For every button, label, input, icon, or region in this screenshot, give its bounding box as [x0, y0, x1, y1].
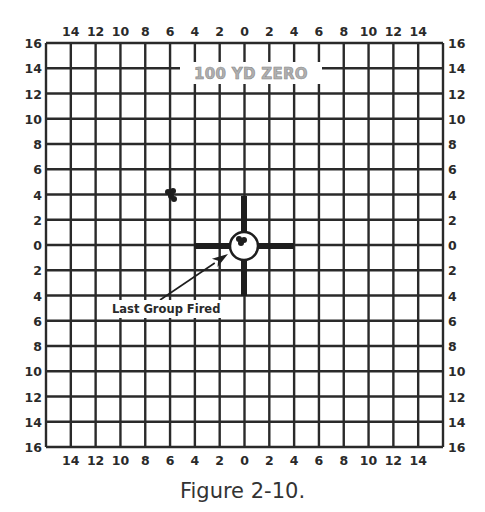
- axis-tick-label: 0: [33, 238, 42, 253]
- axis-tick-label: 2: [33, 213, 42, 228]
- axis-tick-label: 2: [265, 24, 274, 39]
- axis-tick-label: 8: [339, 453, 348, 468]
- axis-tick-label: 16: [448, 36, 466, 51]
- axis-tick-label: 10: [448, 112, 466, 127]
- axis-tick-label: 4: [290, 24, 299, 39]
- bullet-hole: [238, 240, 244, 246]
- axis-tick-label: 12: [448, 390, 465, 405]
- bullet-hole: [171, 196, 177, 202]
- axis-tick-label: 12: [385, 24, 402, 39]
- aiming-circle: [230, 232, 258, 260]
- axis-tick-label: 8: [448, 137, 457, 152]
- axis-tick-label: 0: [448, 238, 457, 253]
- axis-tick-label: 14: [25, 61, 43, 76]
- axis-tick-label: 4: [448, 289, 457, 304]
- axis-tick-label: 6: [448, 314, 457, 329]
- axis-tick-label: 2: [448, 263, 457, 278]
- axis-tick-label: 14: [409, 24, 427, 39]
- axis-tick-label: 6: [166, 453, 175, 468]
- axis-tick-label: 14: [409, 453, 427, 468]
- axis-tick-label: 10: [448, 364, 466, 379]
- figure-caption: Figure 2-10.: [0, 479, 485, 503]
- axis-tick-label: 12: [385, 453, 402, 468]
- axis-tick-label: 6: [166, 24, 175, 39]
- axis-tick-label: 16: [25, 440, 43, 455]
- axis-tick-label: 10: [360, 24, 378, 39]
- axis-tick-label: 0: [240, 24, 249, 39]
- axis-tick-label: 8: [141, 453, 150, 468]
- axis-tick-label: 14: [448, 415, 466, 430]
- axis-tick-label: 0: [240, 453, 249, 468]
- axis-tick-label: 4: [191, 24, 200, 39]
- axis-tick-label: 6: [33, 314, 42, 329]
- axis-tick-label: 4: [33, 289, 42, 304]
- axis-tick-label: 8: [33, 339, 42, 354]
- right-axis-labels: 1614121086420246810121416: [448, 36, 466, 455]
- axis-tick-label: 16: [25, 36, 43, 51]
- axis-tick-label: 12: [25, 390, 42, 405]
- axis-tick-label: 8: [141, 24, 150, 39]
- axis-tick-label: 12: [25, 87, 42, 102]
- axis-tick-label: 4: [33, 188, 42, 203]
- bottom-axis-labels: 141210864202468101214: [62, 453, 427, 468]
- axis-tick-label: 12: [448, 87, 465, 102]
- axis-tick-label: 10: [25, 112, 43, 127]
- axis-tick-label: 14: [25, 415, 43, 430]
- axis-tick-label: 12: [87, 24, 104, 39]
- zero-target-diagram: 100 YD ZERO Last Group Fired 14121086420…: [0, 0, 485, 512]
- axis-tick-label: 8: [339, 24, 348, 39]
- last-group-label: Last Group Fired: [112, 302, 220, 316]
- axis-tick-label: 2: [215, 24, 224, 39]
- axis-tick-label: 6: [33, 162, 42, 177]
- axis-tick-label: 2: [215, 453, 224, 468]
- left-axis-labels: 1614121086420246810121416: [25, 36, 43, 455]
- axis-tick-label: 6: [315, 24, 324, 39]
- axis-tick-label: 16: [448, 440, 466, 455]
- aiming-point-crosshair: [194, 196, 294, 296]
- axis-tick-label: 8: [33, 137, 42, 152]
- axis-tick-label: 4: [191, 453, 200, 468]
- axis-tick-label: 2: [265, 453, 274, 468]
- axis-tick-label: 10: [112, 24, 130, 39]
- top-axis-labels: 141210864202468101214: [62, 24, 427, 39]
- axis-tick-label: 4: [448, 188, 457, 203]
- axis-tick-label: 6: [315, 453, 324, 468]
- axis-tick-label: 10: [360, 453, 378, 468]
- axis-tick-label: 10: [112, 453, 130, 468]
- axis-tick-label: 8: [448, 339, 457, 354]
- axis-tick-label: 14: [62, 24, 80, 39]
- axis-tick-label: 4: [290, 453, 299, 468]
- axis-tick-label: 14: [448, 61, 466, 76]
- axis-tick-label: 14: [62, 453, 80, 468]
- axis-tick-label: 12: [87, 453, 104, 468]
- axis-tick-label: 6: [448, 162, 457, 177]
- axis-tick-label: 2: [33, 263, 42, 278]
- axis-tick-label: 10: [25, 364, 43, 379]
- target-title: 100 YD ZERO: [194, 65, 308, 83]
- axis-tick-label: 2: [448, 213, 457, 228]
